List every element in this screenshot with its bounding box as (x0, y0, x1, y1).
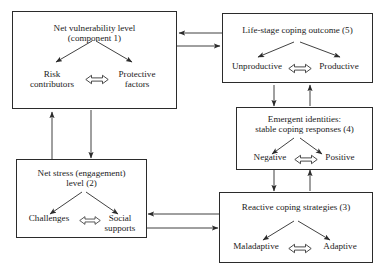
bidirectional-arrow-icon-life-stage-outcome (288, 63, 312, 74)
node-net-stress[interactable]: Net stress (engagement) level (2) Challe… (16, 159, 147, 238)
bidirectional-arrow-icon-net-vulnerability (85, 74, 109, 85)
node-pole-right-reactive-coping: Adaptive (314, 241, 366, 251)
node-pole-right-emergent-identities: Positive (314, 152, 366, 162)
node-pole-right-life-stage-outcome: Productive (309, 61, 369, 71)
node-net-vulnerability[interactable]: Net vulnerability level (component 1) Ri… (12, 11, 177, 109)
node-reactive-coping[interactable]: Reactive coping strategies (3) Maladapti… (219, 192, 373, 263)
node-pole-left-emergent-identities: Negative (243, 152, 297, 162)
node-life-stage-outcome[interactable]: Life-stage coping outcome (5) Unproducti… (222, 13, 373, 83)
bidirectional-arrow-icon-reactive-coping (288, 243, 312, 254)
node-pole-left-net-stress: Challenges (18, 213, 80, 223)
node-pole-left-reactive-coping: Maladaptive (224, 241, 288, 251)
node-title-emergent-identities: Emergent identities: stable coping respo… (237, 114, 372, 134)
node-title-reactive-coping: Reactive coping strategies (3) (220, 202, 372, 212)
node-pole-right-net-stress: Social supports (96, 213, 144, 233)
node-pole-right-net-vulnerability: Protective factors (106, 69, 168, 89)
node-title-net-vulnerability: Net vulnerability level (component 1) (13, 23, 176, 43)
node-title-net-stress: Net stress (engagement) level (2) (17, 168, 146, 188)
node-emergent-identities[interactable]: Emergent identities: stable coping respo… (236, 107, 373, 170)
bidirectional-arrow-icon-net-stress (79, 215, 101, 226)
bidirectional-arrow-icon-emergent-identities (294, 154, 318, 165)
node-pole-left-net-vulnerability: Risk contributors (21, 69, 83, 89)
diagram-canvas: Net vulnerability level (component 1) Ri… (0, 0, 390, 277)
node-title-life-stage-outcome: Life-stage coping outcome (5) (223, 25, 372, 35)
node-pole-left-life-stage-outcome: Unproductive (226, 61, 288, 71)
